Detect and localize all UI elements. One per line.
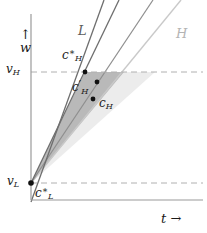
point-label-c-H-star-base: c <box>62 48 69 62</box>
point-c-H <box>91 97 96 102</box>
point-label-c-H-star: c∗H <box>62 47 82 62</box>
point-label-c-L-star-subscript: L <box>48 191 53 201</box>
point-label-c-H: cH <box>99 97 113 110</box>
point-c-H-star <box>83 70 88 75</box>
tick-label-v-H-subscript: H <box>13 67 20 77</box>
line-label-H: H <box>176 27 187 40</box>
tick-label-v-H-base: v <box>6 62 13 76</box>
x-axis-label-text: t <box>161 211 166 226</box>
point-label-c-H-star-subscript: H <box>75 53 82 63</box>
point-label-c-H-subscript: H <box>106 101 113 111</box>
y-axis-label: ↑ w <box>20 28 31 54</box>
tick-label-v-L-base: v <box>7 174 14 188</box>
tick-label-v-H: vH <box>6 63 20 76</box>
y-axis-label-text: w <box>20 40 31 55</box>
point-label-c-H-prime-base: c <box>72 80 79 94</box>
x-axis-label: t → <box>161 212 181 225</box>
line-label-L: L <box>78 24 87 37</box>
tick-label-v-L: vL <box>7 175 19 188</box>
point-c-H-prime <box>95 80 100 85</box>
tick-label-v-L-subscript: L <box>14 179 19 189</box>
point-c-L-star <box>28 180 34 186</box>
right-arrow-icon: → <box>170 211 181 226</box>
ray-mid <box>31 0 153 183</box>
figure-container: ↑ w t → L H vH vL c∗H c′H cH c∗L <box>0 0 207 233</box>
point-label-c-L-star: c∗L <box>35 185 54 200</box>
point-label-c-H-prime-subscript: H <box>81 86 88 96</box>
point-label-c-L-star-base: c <box>35 186 42 200</box>
point-label-c-H-prime: c′H <box>72 80 88 95</box>
point-label-c-H-base: c <box>99 96 106 110</box>
